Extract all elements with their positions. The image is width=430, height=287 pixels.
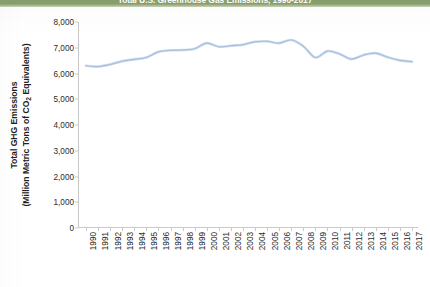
y-tick-label: 1,000: [54, 198, 75, 207]
x-tick-mark: [340, 228, 341, 231]
x-tick-label: 2012: [355, 232, 364, 250]
x-tick-label: 1996: [162, 232, 171, 250]
x-tick-mark: [412, 228, 413, 231]
y-tick-mark: [75, 150, 78, 151]
x-tick-mark: [255, 228, 256, 231]
y-tick-mark: [75, 22, 78, 23]
x-tick-mark: [195, 228, 196, 231]
y-axis-title-line2: (Million Metric Tons of CO2 Equivalents): [20, 44, 32, 207]
x-tick-mark: [231, 228, 232, 231]
x-tick-mark: [315, 228, 316, 231]
x-tick-label: 2000: [210, 232, 219, 250]
x-tick-mark: [352, 228, 353, 231]
x-tick-mark: [364, 228, 365, 231]
y-tick-label: 0: [69, 224, 74, 233]
x-tick-label: 1991: [101, 232, 110, 250]
y-tick-mark: [75, 125, 78, 126]
plot-area: 01,0002,0003,0004,0005,0006,0007,0008,00…: [78, 22, 418, 228]
x-tick-label: 2002: [234, 232, 243, 250]
x-tick-mark: [267, 228, 268, 231]
x-tick-label: 2007: [295, 232, 304, 250]
y-tick-label: 2,000: [54, 172, 75, 181]
x-tick-mark: [171, 228, 172, 231]
x-tick-label: 2016: [403, 232, 412, 250]
x-tick-mark: [86, 228, 87, 231]
x-tick-mark: [400, 228, 401, 231]
x-tick-label: 2009: [319, 232, 328, 250]
x-tick-label: 2013: [367, 232, 376, 250]
x-tick-label: 2004: [258, 232, 267, 250]
x-tick-mark: [158, 228, 159, 231]
x-tick-label: 2005: [271, 232, 280, 250]
y-axis-title-subscript: 2: [24, 97, 31, 101]
x-tick-label: 1995: [150, 232, 159, 250]
y-tick-mark: [75, 73, 78, 74]
y-tick-label: 8,000: [54, 18, 75, 27]
y-tick-mark: [75, 176, 78, 177]
x-tick-mark: [327, 228, 328, 231]
x-tick-label: 1998: [186, 232, 195, 250]
x-tick-mark: [122, 228, 123, 231]
y-axis-title-container: Total GHG Emissions (Million Metric Tons…: [0, 22, 40, 228]
x-tick-mark: [183, 228, 184, 231]
x-tick-label: 2014: [379, 232, 388, 250]
x-tick-mark: [207, 228, 208, 231]
x-tick-mark: [146, 228, 147, 231]
y-axis-title-line2-pre: (Million Metric Tons of CO: [20, 101, 30, 207]
x-tick-label: 2015: [391, 232, 400, 250]
y-tick-label: 3,000: [54, 146, 75, 155]
y-tick-mark: [75, 99, 78, 100]
x-tick-mark: [219, 228, 220, 231]
title-band-fade: [0, 0, 430, 7]
y-axis-title-line1: Total GHG Emissions: [9, 81, 19, 168]
series-line-halo: [86, 40, 412, 67]
y-tick-mark: [75, 228, 78, 229]
y-tick-mark: [75, 47, 78, 48]
x-tick-mark: [243, 228, 244, 231]
x-tick-label: 1993: [126, 232, 135, 250]
y-tick-label: 5,000: [54, 95, 75, 104]
y-axis-title: Total GHG Emissions (Million Metric Tons…: [9, 44, 32, 207]
x-tick-mark: [279, 228, 280, 231]
x-tick-label: 2010: [331, 232, 340, 250]
x-tick-label: 2001: [222, 232, 231, 250]
y-tick-label: 6,000: [54, 69, 75, 78]
x-tick-label: 2017: [415, 232, 424, 250]
x-tick-mark: [98, 228, 99, 231]
x-tick-label: 2003: [246, 232, 255, 250]
x-tick-mark: [388, 228, 389, 231]
y-tick-label: 7,000: [54, 43, 75, 52]
x-tick-label: 1999: [198, 232, 207, 250]
x-tick-label: 2008: [307, 232, 316, 250]
x-tick-label: 2006: [283, 232, 292, 250]
x-tick-mark: [376, 228, 377, 231]
y-axis-title-line2-post: Equivalents): [20, 44, 30, 97]
x-tick-label: 1990: [89, 232, 98, 250]
x-tick-mark: [303, 228, 304, 231]
chart-title-band: Total U.S. Greenhouse Gas Emissions, 199…: [0, 0, 430, 7]
x-tick-mark: [291, 228, 292, 231]
series-line-total-ghg-emissions: [78, 22, 418, 228]
x-tick-label: 1994: [138, 232, 147, 250]
x-tick-label: 2011: [343, 232, 352, 250]
x-tick-mark: [134, 228, 135, 231]
y-tick-mark: [75, 202, 78, 203]
x-tick-label: 1997: [174, 232, 183, 250]
chart-page: Total U.S. Greenhouse Gas Emissions, 199…: [0, 0, 430, 287]
y-tick-label: 4,000: [54, 121, 75, 130]
x-tick-label: 1992: [114, 232, 123, 250]
x-tick-mark: [110, 228, 111, 231]
